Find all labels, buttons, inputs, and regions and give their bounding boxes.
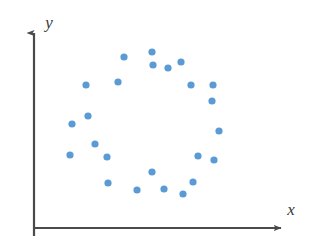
scatter-point: [148, 168, 155, 175]
scatter-point: [91, 140, 98, 147]
scatter-point: [114, 78, 121, 85]
scatter-point: [194, 152, 201, 159]
x-axis-label: x: [286, 200, 295, 219]
scatter-point: [66, 151, 73, 158]
scatter-plot-figure: y x: [0, 0, 324, 249]
scatter-point: [208, 97, 215, 104]
scatter-point: [179, 190, 186, 197]
plot-canvas: y x: [0, 0, 324, 249]
scatter-points-group: [66, 48, 222, 197]
scatter-point: [68, 120, 75, 127]
scatter-point: [84, 112, 91, 119]
scatter-point: [177, 58, 184, 65]
scatter-point: [164, 64, 171, 71]
scatter-point: [120, 53, 127, 60]
scatter-point: [133, 186, 140, 193]
scatter-point: [189, 178, 196, 185]
scatter-point: [104, 179, 111, 186]
axes-group: [34, 33, 281, 236]
scatter-point: [187, 81, 194, 88]
scatter-point: [149, 61, 156, 68]
scatter-point: [82, 81, 89, 88]
scatter-point: [160, 185, 167, 192]
scatter-point: [148, 48, 155, 55]
scatter-point: [210, 156, 217, 163]
y-axis-label: y: [43, 13, 53, 32]
scatter-point: [209, 81, 216, 88]
scatter-point: [215, 127, 222, 134]
scatter-point: [103, 153, 110, 160]
